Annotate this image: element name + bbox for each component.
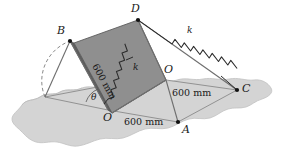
angle-label-theta: θ [91, 93, 96, 102]
upper-spring-coils [172, 39, 237, 68]
point-d-dot [136, 18, 140, 22]
point-label-d: D [131, 3, 140, 14]
point-label-b: B [57, 25, 65, 36]
bar-b-leftvertex [45, 41, 70, 97]
dimension-o-to-c: 600 mm [172, 88, 211, 98]
point-label-o-origin: O [103, 112, 112, 123]
diagram-canvas [0, 0, 283, 156]
mechanics-diagram: B D C A O O k k 600 mm 600 mm 600 mm θ [0, 0, 283, 156]
lower-spring-constant-label: k [133, 63, 138, 72]
point-b-dot [68, 39, 72, 43]
point-label-a: A [182, 124, 190, 135]
point-label-o-right: O [164, 64, 173, 75]
point-c-dot [235, 88, 239, 92]
point-label-c: C [242, 83, 250, 94]
upper-spring-constant-label: k [187, 26, 192, 35]
point-a-dot [176, 120, 180, 124]
dimension-o-to-a: 600 mm [124, 117, 163, 127]
